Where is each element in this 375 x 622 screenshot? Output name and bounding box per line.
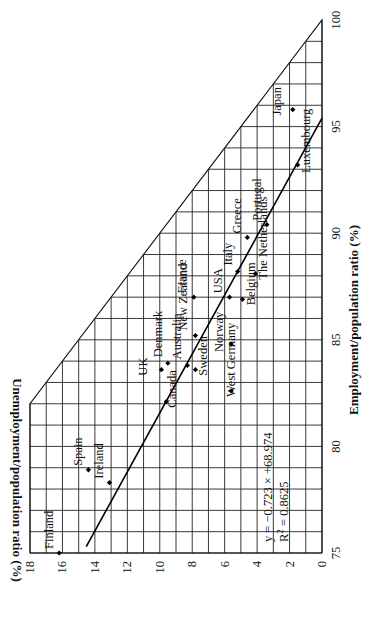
data-point: Greece [230, 198, 250, 240]
x-tick-label: 95 [329, 120, 343, 133]
y-tick-label: 0 [315, 561, 329, 567]
y-tick-label: 16 [55, 561, 69, 574]
data-point: Sweden [193, 335, 211, 375]
data-point: Ireland [92, 442, 112, 485]
diamond-marker-icon [290, 107, 295, 112]
diamond-marker-icon [57, 550, 62, 555]
data-point: Belgium [240, 262, 258, 305]
data-point: France [175, 259, 197, 300]
data-point: USA [211, 268, 233, 300]
chart-container: FinlandSpainIrelandCanadaUKDenmarkAustra… [0, 0, 375, 622]
r-squared: R2 = 0.8625 [275, 481, 291, 542]
y-axis-ticks: 024681012141618 [23, 560, 329, 573]
point-label: UK [136, 358, 150, 376]
x-tick-label: 100 [329, 11, 343, 30]
point-label: Spain [71, 437, 85, 466]
y-axis-label: Unemployment/population ratio (%) [10, 378, 25, 582]
point-label: Canada [165, 370, 179, 408]
point-label: Denmark [151, 310, 165, 357]
data-point: Luxembourg [295, 108, 313, 173]
point-label: Japan [270, 86, 284, 115]
y-tick-label: 4 [250, 560, 264, 567]
regression-equation: y = −0.723 × +68.974 [261, 432, 275, 542]
x-tick-label: 90 [329, 227, 343, 240]
diamond-marker-icon [245, 235, 250, 240]
y-tick-label: 12 [120, 561, 134, 574]
diamond-marker-icon [227, 295, 232, 300]
point-label: Greece [230, 198, 244, 234]
point-label: Ireland [92, 442, 106, 478]
x-tick-label: 80 [329, 440, 343, 453]
point-label: Portugal [250, 178, 264, 221]
point-label: West Germany [224, 322, 238, 397]
data-point: West Germany [224, 322, 238, 397]
y-tick-label: 6 [218, 561, 232, 567]
y-tick-label: 10 [153, 561, 167, 574]
x-axis-label: Employment/population ratio (%) [346, 225, 361, 415]
x-tick-label: 75 [329, 547, 343, 560]
point-label: France [175, 259, 189, 293]
point-label: Italy [221, 242, 235, 266]
x-axis-ticks: 7580859095100 [329, 11, 343, 560]
point-label: Sweden [196, 335, 210, 375]
point-label: Finland [42, 510, 56, 549]
data-point: Finland [42, 510, 62, 556]
y-tick-label: 8 [185, 561, 199, 567]
data-point: Japan [270, 86, 296, 115]
y-tick-label: 2 [283, 561, 297, 567]
data-point: Spain [71, 437, 91, 473]
point-label: USA [211, 268, 225, 293]
point-label: Luxembourg [299, 108, 313, 173]
scatter-chart: FinlandSpainIrelandCanadaUKDenmarkAustra… [0, 0, 375, 622]
x-tick-label: 85 [329, 334, 343, 347]
data-point: Canada [164, 370, 180, 408]
point-label: Belgium [244, 262, 258, 305]
regression-annotation: y = −0.723 × +68.974R2 = 0.8625 [261, 432, 291, 542]
y-tick-label: 14 [88, 560, 102, 573]
